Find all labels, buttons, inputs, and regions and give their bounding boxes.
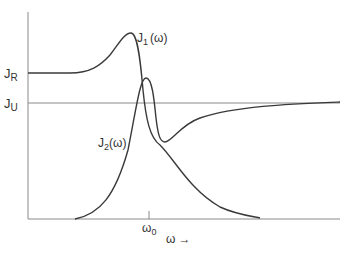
j2-label: J2(ω) xyxy=(98,136,126,152)
omega0-label: ω0 xyxy=(142,221,156,237)
ju-label: JU xyxy=(4,96,18,113)
jr-label: JR xyxy=(4,66,18,83)
j1-curve xyxy=(28,33,260,218)
dispersion-diagram: JR JU J1(ω) J2(ω) ω0 ω→ xyxy=(0,0,352,254)
omega-axis-label: ω→ xyxy=(166,232,190,246)
j1-label: J1(ω) xyxy=(137,31,167,47)
